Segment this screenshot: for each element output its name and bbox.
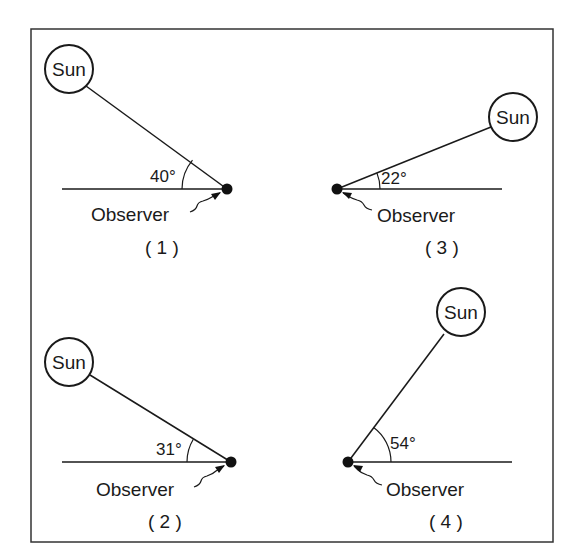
observer-dot-icon (222, 184, 233, 195)
observer-dot-icon (343, 457, 354, 468)
panel-number: ( 4 ) (429, 511, 463, 532)
sun-label: Sun (52, 59, 86, 80)
sun-label: Sun (444, 302, 478, 323)
panel-number: ( 3 ) (425, 237, 459, 258)
observer-label: Observer (91, 204, 170, 225)
sun-label: Sun (496, 107, 530, 128)
panel-number: ( 1 ) (145, 237, 179, 258)
sun-angle-diagram: Sun 40° Observer ( 1 ) Sun 22° Observer … (0, 0, 580, 557)
diagram-frame (31, 29, 553, 542)
observer-dot-icon (332, 184, 343, 195)
sun-label: Sun (52, 352, 86, 373)
angle-label: 40° (150, 167, 176, 186)
panel-number: ( 2 ) (148, 511, 182, 532)
observer-label: Observer (386, 479, 465, 500)
angle-label: 31° (156, 440, 182, 459)
angle-label: 22° (381, 169, 407, 188)
observer-dot-icon (226, 457, 237, 468)
angle-label: 54° (390, 434, 416, 453)
observer-label: Observer (96, 479, 175, 500)
observer-label: Observer (377, 205, 456, 226)
